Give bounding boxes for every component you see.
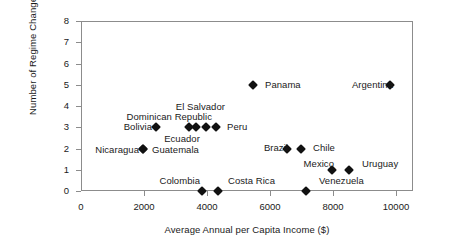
x-axis-title: Average Annual per Capita Income ($) — [81, 224, 413, 235]
y-tick-mark — [76, 149, 81, 150]
point-label: Guatemala — [152, 145, 199, 156]
y-tick-mark — [76, 64, 81, 65]
point-label: Panama — [265, 80, 301, 91]
y-tick-label: 5 — [47, 80, 69, 90]
y-tick-mark — [76, 42, 81, 43]
x-tick-label: 0 — [56, 202, 106, 212]
x-tick-mark — [207, 191, 208, 196]
y-tick-mark — [76, 85, 81, 86]
y-tick-mark — [76, 170, 81, 171]
y-tick-mark — [76, 106, 81, 107]
point-label: Costa Rica — [228, 176, 275, 187]
x-tick-label: 8000 — [308, 202, 358, 212]
y-tick-label: 0 — [47, 186, 69, 196]
x-tick-label: 2000 — [119, 202, 169, 212]
x-tick-label: 4000 — [182, 202, 232, 212]
y-tick-label: 2 — [47, 144, 69, 154]
y-axis-title: Number of Regime Changes — [27, 0, 38, 130]
x-tick-mark — [144, 191, 145, 196]
y-tick-label: 7 — [47, 37, 69, 47]
x-tick-mark — [333, 191, 334, 196]
point-label: Venezuela — [319, 176, 364, 187]
point-label: Uruguay — [362, 159, 398, 170]
point-label: Argentina — [352, 80, 393, 91]
point-label: Brazil — [264, 143, 288, 154]
x-tick-mark — [270, 191, 271, 196]
y-tick-mark — [76, 127, 81, 128]
y-tick-label: 8 — [47, 16, 69, 26]
point-label: Chile — [313, 143, 335, 154]
point-label: Bolivia — [124, 122, 152, 133]
point-label: Nicaragua — [95, 145, 139, 156]
x-tick-label: 6000 — [245, 202, 295, 212]
x-tick-mark — [396, 191, 397, 196]
y-tick-mark — [76, 21, 81, 22]
point-label: Colombia — [159, 176, 200, 187]
point-label: Mexico — [304, 159, 334, 170]
y-tick-mark — [76, 191, 81, 192]
y-tick-label: 4 — [47, 101, 69, 111]
x-tick-label: 10000 — [371, 202, 421, 212]
chart-page: Number of Regime Changes Average Annual … — [0, 0, 452, 243]
y-tick-label: 3 — [47, 122, 69, 132]
y-tick-label: 1 — [47, 165, 69, 175]
point-label: Ecuador — [164, 134, 200, 145]
point-label: Peru — [227, 122, 247, 133]
y-tick-label: 6 — [47, 59, 69, 69]
